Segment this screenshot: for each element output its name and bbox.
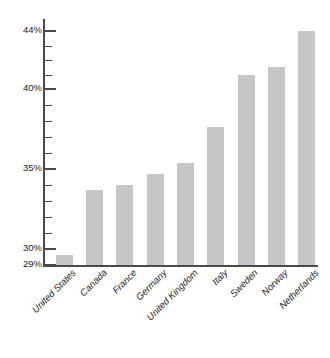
x-axis-labels: United StatesCanadaFranceGermanyUnited K… [45, 267, 318, 358]
y-axis-tick-label: 30% [23, 243, 42, 253]
bar-chart: 44%40%35%30%29% United StatesCanadaFranc… [0, 0, 330, 358]
y-axis-tick-label: 35% [23, 163, 42, 173]
x-axis-tick-label-wrapper: Italy [210, 267, 230, 287]
x-axis-tick-label-wrapper: Sweden [228, 267, 260, 299]
bar [116, 185, 133, 265]
bar [207, 127, 224, 265]
x-axis-tick-label: United States [30, 267, 78, 315]
x-axis-tick-label-wrapper: Canada [77, 267, 108, 298]
x-axis-tick-label-wrapper: United States [30, 267, 78, 315]
y-axis-tick-label: 40% [23, 83, 42, 93]
x-axis-tick-label-wrapper: France [110, 267, 139, 296]
bar [268, 67, 285, 265]
x-axis-tick-label: Canada [77, 267, 108, 298]
x-axis-tick-label: Sweden [228, 267, 260, 299]
bar [86, 190, 103, 265]
bar [56, 255, 73, 265]
bar [238, 75, 255, 266]
bars-container [45, 19, 318, 265]
y-axis-tick-label: 44% [23, 25, 42, 35]
bar [298, 31, 315, 265]
x-axis-tick-label: Italy [210, 267, 230, 287]
y-axis-tick-label: 29% [23, 259, 42, 269]
bar [177, 163, 194, 265]
bar [147, 174, 164, 265]
x-axis-tick-label: France [110, 267, 139, 296]
